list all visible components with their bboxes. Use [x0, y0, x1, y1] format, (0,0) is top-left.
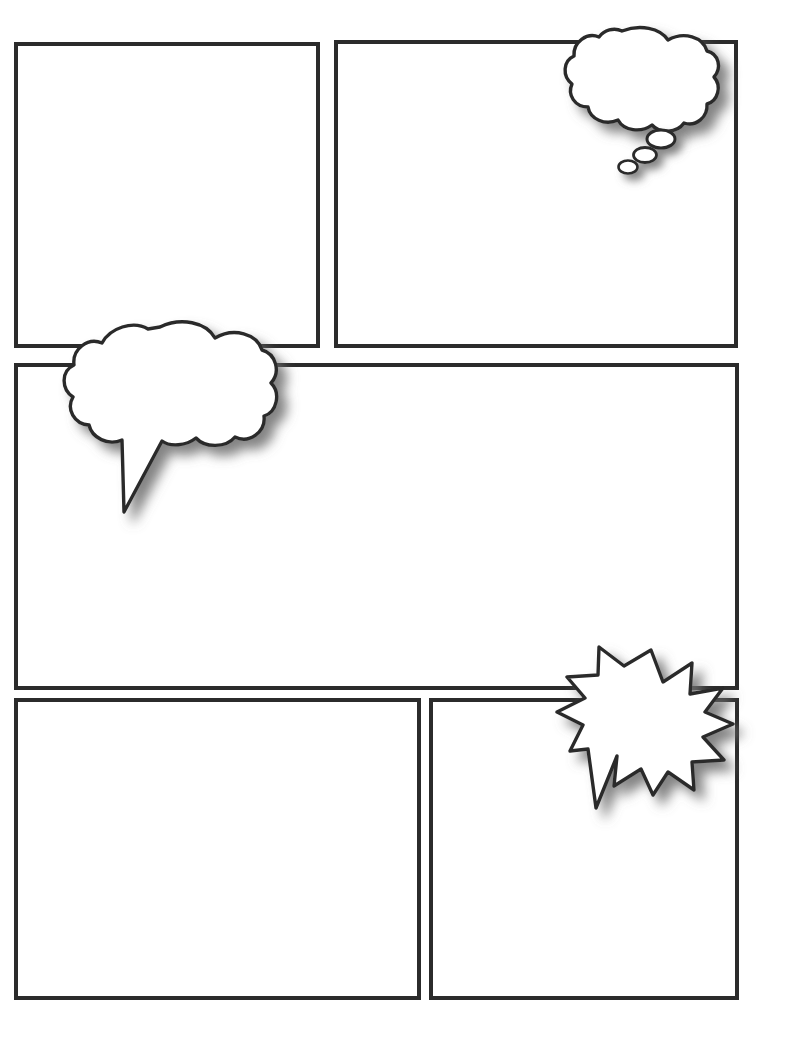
speech-balloon-cloud[interactable]	[64, 322, 276, 512]
thought-balloon[interactable]	[565, 28, 718, 174]
burst-balloon-shape[interactable]	[557, 647, 733, 808]
thought-dot-medium	[634, 148, 657, 163]
comic-page	[0, 0, 790, 1059]
burst-balloon[interactable]	[557, 647, 733, 808]
speech-balloon[interactable]	[64, 322, 276, 512]
balloon-overlay	[0, 0, 790, 1059]
thought-balloon-shape[interactable]	[565, 28, 718, 132]
burst-balloon-star[interactable]	[557, 647, 733, 808]
speech-balloon-shape[interactable]	[64, 322, 276, 512]
thought-balloon-tail-dots	[619, 130, 676, 174]
thought-balloon-cloud[interactable]	[565, 28, 718, 132]
thought-dot-large	[647, 130, 675, 148]
thought-dot-small	[619, 161, 638, 174]
balloon-layer	[0, 0, 790, 1059]
